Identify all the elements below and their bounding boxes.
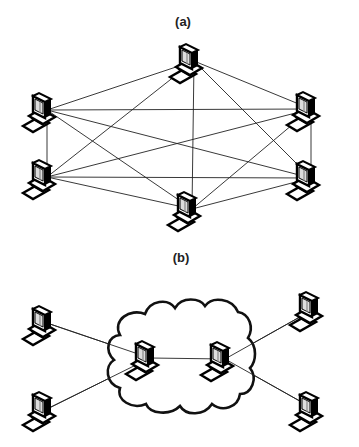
network-link (47, 110, 311, 178)
desktop-computer-icon (23, 306, 55, 345)
panel-a-label: (a) (175, 14, 191, 29)
network-link (194, 61, 311, 178)
desktop-computer-icon (23, 160, 55, 199)
panel-b-label: (b) (173, 250, 190, 265)
network-diagram: (a) (b) (0, 0, 359, 447)
desktop-computer-icon (287, 92, 319, 131)
desktop-computer-icon (170, 44, 202, 83)
desktop-computer-icon (168, 192, 200, 231)
desktop-computer-icon (287, 161, 319, 200)
network-link (47, 177, 311, 178)
mesh-computers (23, 44, 319, 231)
desktop-computer-icon (290, 292, 322, 331)
network-link (194, 61, 311, 109)
network-link (47, 109, 311, 110)
desktop-computer-icon (23, 93, 55, 132)
network-link (192, 61, 194, 209)
network-link (47, 109, 311, 177)
desktop-computer-icon (23, 392, 55, 431)
network-cloud-icon (108, 300, 255, 414)
network-link (47, 177, 192, 209)
network-link (47, 61, 194, 110)
